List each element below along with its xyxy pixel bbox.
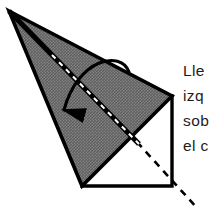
instruction-text-block: Lle izq sob el c bbox=[183, 58, 217, 158]
figure-root: Lle izq sob el c bbox=[0, 0, 217, 207]
instruction-line-1: Lle bbox=[183, 58, 217, 83]
instruction-line-2: izq bbox=[183, 83, 217, 108]
instruction-line-4: el c bbox=[183, 133, 217, 158]
instruction-line-3: sob bbox=[183, 108, 217, 133]
